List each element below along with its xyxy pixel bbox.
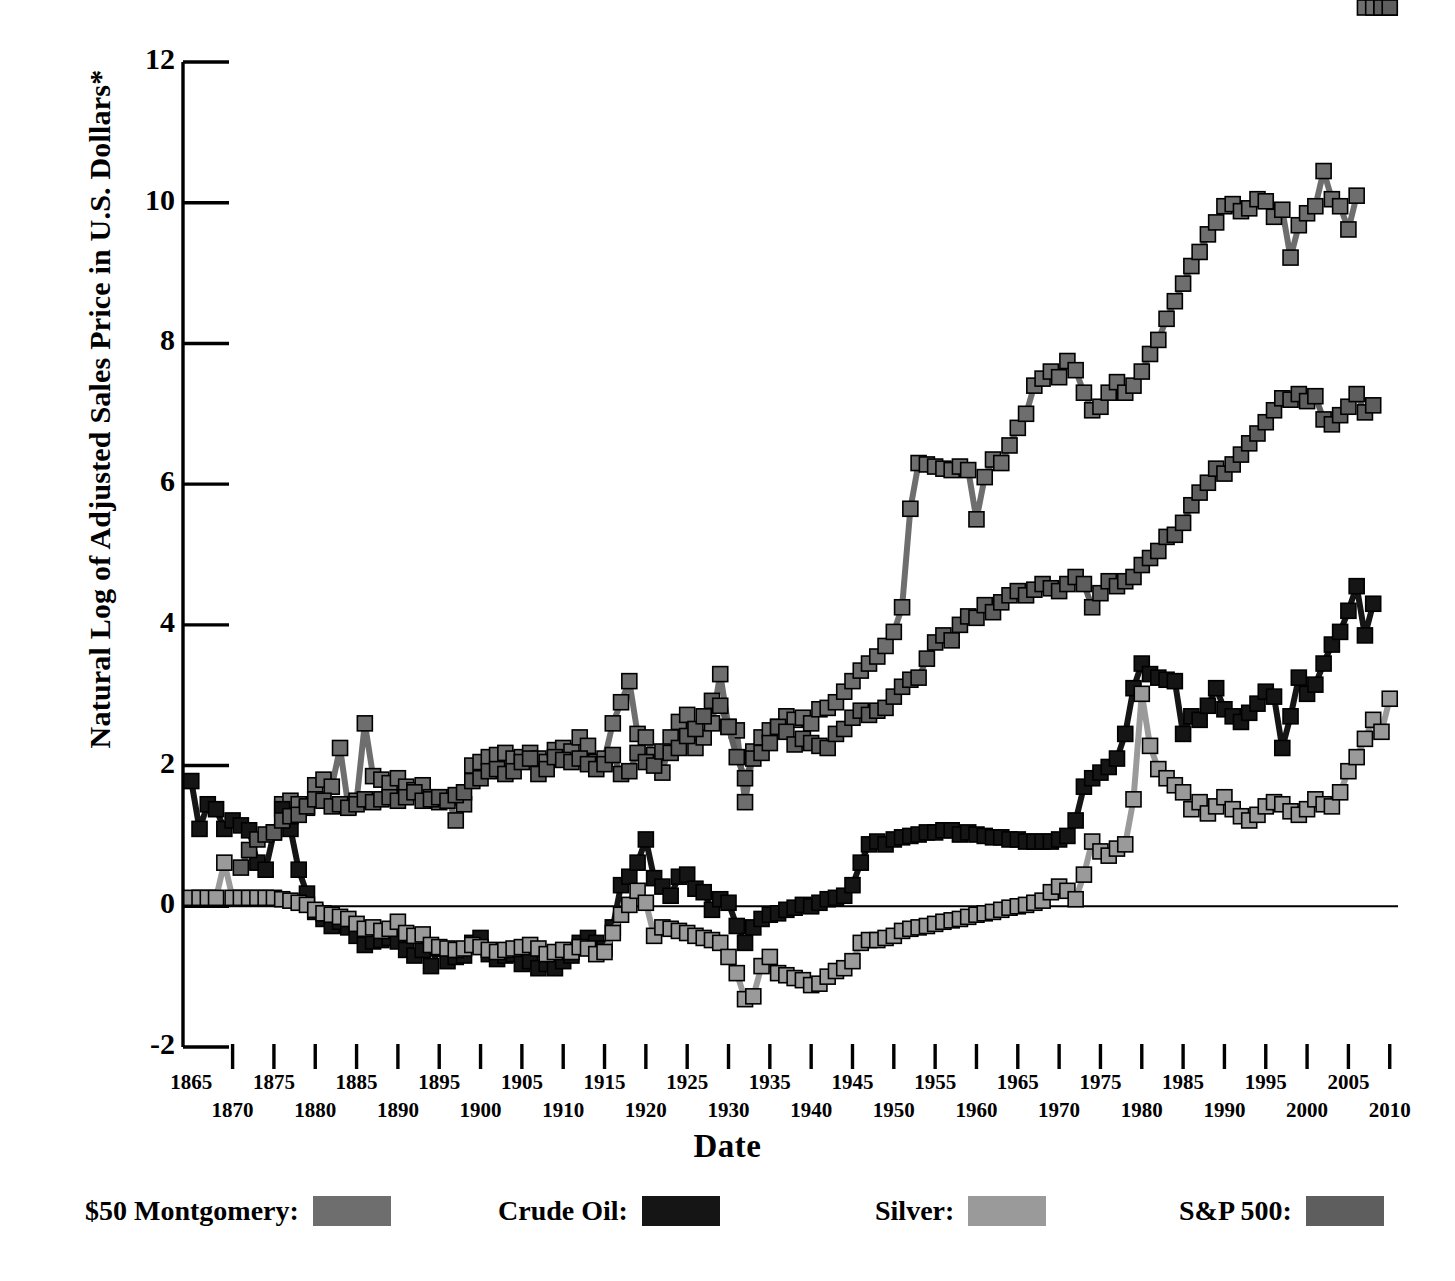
data-point — [1151, 332, 1166, 347]
data-point — [738, 771, 753, 786]
legend-item-silver[interactable]: Silver: — [875, 1196, 1046, 1226]
data-point — [638, 730, 653, 745]
data-point — [291, 862, 306, 877]
data-point — [696, 709, 711, 724]
legend-item-sp500[interactable]: S&P 500: — [1179, 1196, 1384, 1226]
data-point — [762, 949, 777, 964]
data-point — [903, 501, 918, 516]
legend-label-crude-oil: Crude Oil: — [498, 1197, 628, 1225]
x-axis-title: Date — [0, 1128, 1455, 1165]
data-point — [638, 895, 653, 910]
legend-swatch-sp500 — [1306, 1196, 1384, 1226]
x-tick-label-2010: 2010 — [1369, 1100, 1411, 1121]
data-point — [448, 813, 463, 828]
data-point — [1167, 294, 1182, 309]
legend-item-montgomery[interactable]: $50 Montgomery: — [85, 1196, 391, 1226]
legend-swatch-montgomery — [313, 1196, 391, 1226]
data-point — [1333, 624, 1348, 639]
legend-label-montgomery: $50 Montgomery: — [85, 1197, 299, 1225]
x-tick-label-1925: 1925 — [666, 1072, 708, 1093]
data-point — [1308, 389, 1323, 404]
x-tick-label-2005: 2005 — [1327, 1072, 1369, 1093]
data-point — [217, 855, 232, 870]
x-tick-label-1930: 1930 — [708, 1100, 750, 1121]
data-point — [614, 695, 629, 710]
data-point — [1076, 385, 1091, 400]
data-point — [1341, 222, 1356, 237]
x-tick-label-1985: 1985 — [1162, 1072, 1204, 1093]
data-point — [729, 918, 744, 933]
data-point — [804, 716, 819, 731]
x-tick-label-1970: 1970 — [1038, 1100, 1080, 1121]
data-point — [1151, 543, 1166, 558]
data-point — [1184, 259, 1199, 274]
data-point — [630, 855, 645, 870]
data-point — [1316, 656, 1331, 671]
data-point — [1126, 792, 1141, 807]
data-point — [1052, 370, 1067, 385]
data-point — [184, 774, 199, 789]
data-point — [1349, 387, 1364, 402]
data-point — [1076, 867, 1091, 882]
plot-canvas — [0, 0, 1455, 1281]
data-point — [738, 795, 753, 810]
legend-item-crude-oil[interactable]: Crude Oil: — [498, 1196, 720, 1226]
data-point — [192, 821, 207, 836]
data-point — [878, 638, 893, 653]
data-point — [1060, 828, 1075, 843]
data-point — [597, 945, 612, 960]
data-point — [1010, 420, 1025, 435]
data-point — [1093, 399, 1108, 414]
data-point — [853, 855, 868, 870]
data-point — [1382, 691, 1397, 706]
data-point — [357, 716, 372, 731]
data-point — [1267, 689, 1282, 704]
data-point — [1192, 244, 1207, 259]
x-tick-label-1975: 1975 — [1079, 1072, 1121, 1093]
x-tick-label-1865: 1865 — [170, 1072, 212, 1093]
series-s-p-500 — [233, 0, 1397, 875]
data-point — [209, 890, 224, 905]
data-point — [1341, 603, 1356, 618]
data-point — [1275, 740, 1290, 755]
x-tick-label-1915: 1915 — [584, 1072, 626, 1093]
data-point — [1349, 579, 1364, 594]
chart-root: Natural Log of Adjusted Sales Price in U… — [0, 0, 1455, 1281]
x-tick-label-1910: 1910 — [542, 1100, 584, 1121]
x-tick-label-1870: 1870 — [212, 1100, 254, 1121]
data-point — [1134, 686, 1149, 701]
x-tick-label-1895: 1895 — [418, 1072, 460, 1093]
data-point — [969, 512, 984, 527]
data-point — [721, 719, 736, 734]
data-point — [713, 667, 728, 682]
x-tick-label-1995: 1995 — [1245, 1072, 1287, 1093]
data-point — [1283, 709, 1298, 724]
data-point — [919, 651, 934, 666]
x-tick-label-1920: 1920 — [625, 1100, 667, 1121]
data-point — [1349, 188, 1364, 203]
data-point — [911, 670, 926, 685]
data-point — [886, 624, 901, 639]
data-point — [1159, 311, 1174, 326]
data-point — [1374, 724, 1389, 739]
data-point — [1109, 751, 1124, 766]
data-point — [324, 779, 339, 794]
data-point — [638, 832, 653, 847]
data-point — [944, 633, 959, 648]
x-tick-label-1990: 1990 — [1203, 1100, 1245, 1121]
data-point — [1209, 215, 1224, 230]
data-point — [1019, 406, 1034, 421]
data-point — [622, 897, 637, 912]
data-point — [1126, 378, 1141, 393]
data-point — [1068, 813, 1083, 828]
data-point — [820, 740, 835, 755]
data-point — [1333, 199, 1348, 214]
x-tick-label-1960: 1960 — [955, 1100, 997, 1121]
data-point — [1308, 677, 1323, 692]
data-point — [1333, 785, 1348, 800]
x-tick-label-1900: 1900 — [460, 1100, 502, 1121]
data-point — [762, 736, 777, 751]
data-point — [622, 764, 637, 779]
data-point — [1366, 596, 1381, 611]
data-point — [1134, 364, 1149, 379]
